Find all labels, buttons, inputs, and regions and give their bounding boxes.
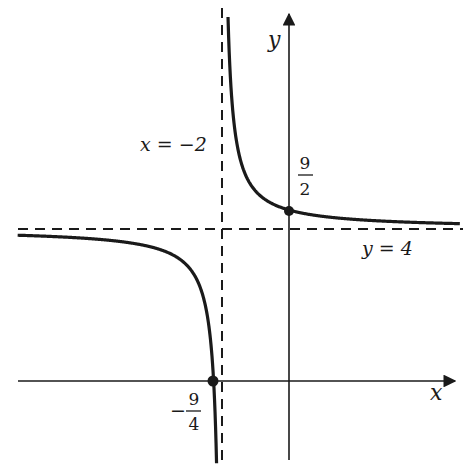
y-intercept-point <box>284 206 294 216</box>
curve-right-branch <box>228 17 460 224</box>
y-axis-label: y <box>267 27 281 52</box>
x-intercept-point <box>208 376 219 387</box>
horizontal-asymptote-label: y = 4 <box>361 237 413 259</box>
svg-text:9: 9 <box>300 153 311 173</box>
curve-left-branch <box>18 235 217 463</box>
hyperbola-plot: y x x = −2 y = 4 9 2 − 9 4 <box>0 0 463 465</box>
svg-text:2: 2 <box>300 179 311 199</box>
vertical-asymptote-label: x = −2 <box>140 133 207 155</box>
x-intercept-label: − 9 4 <box>170 389 201 434</box>
x-axis-label: x <box>430 380 443 405</box>
svg-text:4: 4 <box>189 414 200 434</box>
y-intercept-label: 9 2 <box>298 153 313 199</box>
svg-text:−: − <box>170 399 186 421</box>
svg-text:9: 9 <box>189 389 200 409</box>
